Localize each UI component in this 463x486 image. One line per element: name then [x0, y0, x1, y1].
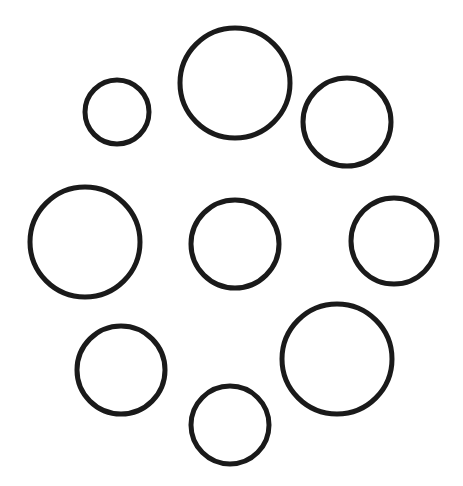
circle-left-large [30, 187, 140, 297]
circle-top-right-medium [303, 78, 391, 166]
circle-center-medium [191, 200, 279, 288]
circles-diagram [0, 0, 463, 486]
circle-bottom-right-large [282, 304, 392, 414]
circle-top-left-small [85, 80, 149, 144]
circle-right-medium [351, 198, 437, 284]
circle-bottom-left-medium [77, 326, 165, 414]
circle-bottom-small [191, 386, 269, 464]
circle-top-large [180, 28, 290, 138]
